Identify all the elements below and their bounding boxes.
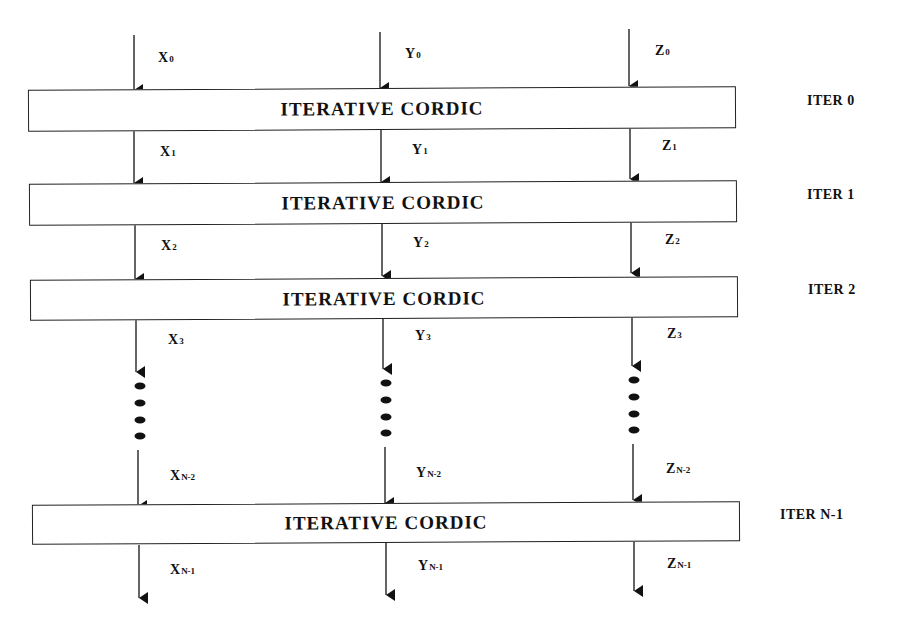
signal-z2: Z2 — [665, 232, 680, 248]
output-arrows-stageN1 — [139, 538, 634, 598]
arrows-stageN2 — [138, 444, 633, 506]
signal-zn1: ZN-1 — [667, 556, 691, 572]
cordic-block-iter2: ITERATIVE CORDIC — [30, 276, 738, 321]
signal-z3: Z3 — [667, 326, 682, 342]
iter-label-1: ITER 1 — [807, 187, 855, 203]
iter-label-n1: ITER N-1 — [780, 507, 844, 523]
signal-z1: Z1 — [662, 138, 677, 154]
signal-x3: X3 — [168, 332, 184, 348]
iter-label-2: ITER 2 — [808, 282, 856, 298]
signal-y3: Y3 — [415, 328, 431, 344]
block-label: ITERATIVE CORDIC — [284, 511, 487, 534]
ellipsis-dots — [135, 377, 640, 440]
arrows-stage1 — [134, 125, 630, 183]
ellipsis-z — [629, 377, 640, 434]
block-label: ITERATIVE CORDIC — [281, 191, 484, 214]
iter-label-0: ITER 0 — [807, 93, 855, 109]
cordic-block-iterN1: ITERATIVE CORDIC — [32, 501, 740, 545]
signal-y1: Y1 — [412, 142, 428, 158]
block-label: ITERATIVE CORDIC — [280, 97, 483, 120]
signal-y0: Y0 — [405, 46, 421, 62]
signal-xn1: XN-1 — [170, 562, 195, 578]
signal-xn2: XN-2 — [170, 468, 195, 484]
arrows-stage2 — [135, 218, 631, 279]
signal-yn2: YN-2 — [416, 465, 441, 481]
signal-y2: Y2 — [413, 235, 429, 251]
signal-yn1: YN-1 — [418, 558, 443, 574]
block-label: ITERATIVE CORDIC — [282, 287, 485, 310]
cordic-block-iter0: ITERATIVE CORDIC — [28, 86, 736, 132]
cordic-block-iter1: ITERATIVE CORDIC — [29, 180, 737, 226]
signal-z0: Z0 — [655, 43, 670, 59]
signal-x0: X0 — [158, 50, 174, 66]
signal-zn2: ZN-2 — [666, 461, 690, 477]
arrows-stage3 — [136, 312, 632, 372]
signal-x1: X1 — [160, 144, 176, 160]
input-arrows-stage0 — [134, 29, 629, 90]
ellipsis-y — [381, 380, 392, 437]
signal-x2: X2 — [161, 238, 177, 254]
ellipsis-x — [135, 383, 146, 440]
